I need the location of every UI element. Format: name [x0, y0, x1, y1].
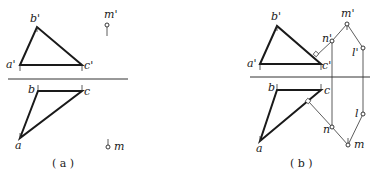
point-m-b — [346, 143, 350, 147]
label-m: m — [114, 140, 124, 153]
label-l-prime: l' — [352, 46, 359, 59]
label-l: l — [355, 107, 359, 120]
label-b-prime: b' — [30, 12, 40, 25]
label-b: b — [28, 83, 35, 96]
label-a-b: a — [256, 142, 263, 155]
triangle-top-view-a — [20, 91, 82, 138]
caption-a: ( a ) — [52, 157, 74, 170]
point-n — [330, 125, 334, 129]
point-l-prime — [361, 46, 365, 50]
label-b-b: b — [268, 81, 275, 94]
triangle-front-view-b — [260, 26, 321, 64]
label-m-prime: m' — [104, 8, 117, 21]
orthographic-projection-diagram: b' a' c' m' b c a m ( a ) b' a' c' — [0, 0, 378, 179]
label-c-prime: c' — [84, 59, 93, 72]
caption-b: ( b ) — [290, 157, 313, 170]
point-m-prime — [105, 23, 109, 27]
label-a-prime-b: a' — [247, 57, 257, 70]
point-m — [106, 145, 110, 149]
label-m-b: m — [354, 138, 364, 151]
label-n-prime: n' — [322, 32, 332, 45]
label-a: a — [15, 139, 22, 152]
label-n: n — [323, 123, 330, 136]
point-m-prime-b — [345, 22, 349, 26]
triangle-top-view-b — [260, 90, 321, 141]
label-b-prime-b: b' — [271, 10, 281, 23]
label-c-prime-b: c' — [322, 59, 331, 72]
label-m-prime-b: m' — [341, 7, 354, 20]
label-a-prime: a' — [6, 58, 16, 71]
point-l — [361, 112, 365, 116]
figure-a: b' a' c' m' b c a m ( a ) — [6, 8, 128, 170]
figure-b: b' a' c' m' n' l' b c a n m l ( b ) — [247, 7, 370, 170]
label-c: c — [84, 85, 90, 98]
label-c-b: c — [324, 84, 330, 97]
right-angle-mark-front — [313, 51, 319, 57]
triangle-front-view-a — [20, 27, 82, 65]
